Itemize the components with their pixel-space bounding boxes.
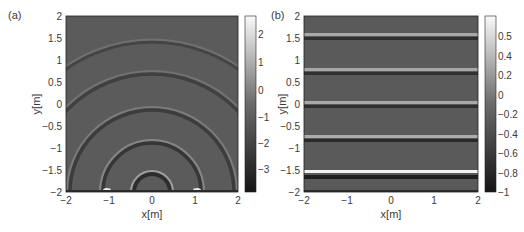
svg-text:2: 2 xyxy=(294,11,300,22)
svg-text:−1: −1 xyxy=(498,187,510,198)
svg-text:−0.2: −0.2 xyxy=(498,109,518,120)
svg-text:−1.5: −1.5 xyxy=(280,165,300,176)
svg-text:0: 0 xyxy=(388,195,394,206)
colorbar-tick-labels-a: 2 1 0 −1 −2 −3 xyxy=(258,29,270,175)
svg-text:1: 1 xyxy=(294,55,300,66)
svg-text:1: 1 xyxy=(258,57,264,68)
svg-text:0: 0 xyxy=(149,195,155,206)
colorbar-b xyxy=(485,16,496,192)
svg-text:−0.5: −0.5 xyxy=(42,121,62,132)
svg-text:0: 0 xyxy=(258,85,264,96)
svg-text:0.5: 0.5 xyxy=(48,77,62,88)
svg-text:0: 0 xyxy=(294,99,300,110)
x-axis-label-a: x[m] xyxy=(142,208,163,220)
svg-text:−1: −1 xyxy=(341,195,353,206)
x-tick-labels-a: −2 −1 0 1 2 xyxy=(60,195,241,206)
svg-text:1.5: 1.5 xyxy=(48,33,62,44)
svg-text:2: 2 xyxy=(475,195,481,206)
svg-text:−0.6: −0.6 xyxy=(498,148,518,159)
panel-label-b: (b) xyxy=(271,9,284,21)
svg-text:−2: −2 xyxy=(298,195,310,206)
x-axis-label-b: x[m] xyxy=(381,208,402,220)
svg-text:1: 1 xyxy=(56,55,62,66)
svg-text:−1: −1 xyxy=(289,143,301,154)
y-axis-label-a: y[m] xyxy=(30,94,42,115)
svg-text:0.2: 0.2 xyxy=(498,70,512,81)
svg-text:0.5: 0.5 xyxy=(286,77,300,88)
panel-a: (a) 2 1.5 xyxy=(0,9,305,232)
svg-text:−0.5: −0.5 xyxy=(280,121,300,132)
svg-text:−1: −1 xyxy=(51,143,63,154)
svg-text:−2: −2 xyxy=(258,138,270,149)
svg-text:2: 2 xyxy=(56,11,62,22)
svg-text:1.5: 1.5 xyxy=(286,33,300,44)
svg-text:−3: −3 xyxy=(258,164,270,175)
panel-label-a: (a) xyxy=(8,9,21,21)
svg-text:0.5: 0.5 xyxy=(498,31,512,42)
heatmap-b xyxy=(304,16,478,192)
x-tick-labels-b: −2 −1 0 1 2 xyxy=(298,195,481,206)
svg-text:0: 0 xyxy=(498,90,504,101)
svg-text:−1.5: −1.5 xyxy=(42,165,62,176)
svg-text:2: 2 xyxy=(235,195,241,206)
svg-text:−1: −1 xyxy=(103,195,115,206)
svg-text:−2: −2 xyxy=(60,195,72,206)
svg-text:−0.8: −0.8 xyxy=(498,168,518,179)
svg-text:−1: −1 xyxy=(258,112,270,123)
svg-text:−0.4: −0.4 xyxy=(498,129,518,140)
svg-text:1: 1 xyxy=(192,195,198,206)
colorbar-tick-labels-b: 0.5 0.4 0.2 0 −0.2 −0.4 −0.6 −0.8 −1 xyxy=(498,31,518,198)
svg-text:1: 1 xyxy=(431,195,437,206)
svg-text:2: 2 xyxy=(258,29,264,40)
y-axis-label-b: y[m] xyxy=(276,94,288,115)
panel-b: (b) 2 1.5 1 0.5 0 −0.5 −1 −1.5 −2 xyxy=(271,9,518,220)
figure: (a) 2 1.5 xyxy=(0,0,524,232)
svg-text:0.4: 0.4 xyxy=(498,51,512,62)
colorbar-a xyxy=(245,16,256,192)
svg-text:0: 0 xyxy=(56,99,62,110)
y-tick-labels-a: 2 1.5 1 0.5 0 −0.5 −1 −1.5 −2 xyxy=(42,11,62,198)
